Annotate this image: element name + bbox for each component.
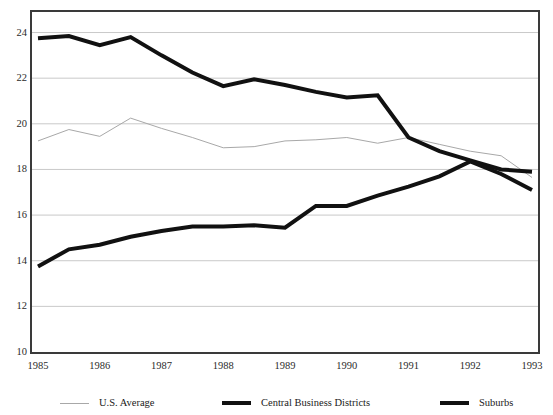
x-tick-label-1992: 1992 [460, 360, 481, 372]
y-tick-label-16: 16 [1, 210, 27, 220]
x-tick-label-1985: 1985 [28, 360, 49, 372]
legend-item-central-business-districts[interactable]: Central Business Districts [222, 394, 370, 412]
legend-swatch-icon [222, 401, 251, 405]
legend-swatch-icon [60, 403, 89, 404]
series-line-suburbs [38, 161, 532, 266]
x-tick-label-1987: 1987 [151, 360, 172, 372]
y-tick-label-18: 18 [1, 164, 27, 174]
x-axis-tick-labels: 198519861987198819891990199119921993 [30, 358, 540, 376]
y-tick-label-22: 22 [1, 73, 27, 83]
plot-area [30, 10, 540, 354]
legend-swatch-icon [440, 401, 469, 405]
legend-label: Central Business Districts [261, 397, 370, 409]
x-tick-label-1986: 1986 [89, 360, 110, 372]
y-tick-label-20: 20 [1, 119, 27, 129]
y-tick-label-24: 24 [1, 28, 27, 38]
y-tick-label-12: 12 [1, 301, 27, 311]
chart-figure: 2422201816141210 19851986198719881989199… [0, 0, 553, 415]
x-tick-label-1988: 1988 [213, 360, 234, 372]
series-line-central-business-districts [38, 36, 532, 172]
y-tick-label-14: 14 [1, 256, 27, 266]
legend-label: Suburbs [479, 397, 513, 409]
y-axis-tick-labels: 2422201816141210 [0, 10, 27, 354]
legend-item-u-s-average[interactable]: U.S. Average [60, 394, 155, 412]
legend-label: U.S. Average [99, 397, 155, 409]
x-tick-label-1989: 1989 [275, 360, 296, 372]
y-tick-label-10: 10 [1, 347, 27, 357]
x-tick-label-1990: 1990 [336, 360, 357, 372]
legend-item-suburbs[interactable]: Suburbs [440, 394, 513, 412]
x-tick-label-1993: 1993 [522, 360, 543, 372]
x-tick-label-1991: 1991 [398, 360, 419, 372]
plot-svg [32, 12, 538, 352]
chart-legend: U.S. AverageCentral Business DistrictsSu… [0, 394, 553, 414]
